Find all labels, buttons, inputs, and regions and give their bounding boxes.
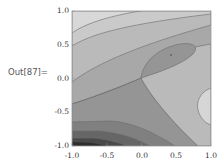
contour-plot — [0, 0, 218, 167]
x-tick-label: -1.0 — [60, 151, 84, 160]
x-tick-label: 1.0 — [199, 151, 218, 160]
contour-regions — [72, 11, 211, 146]
x-tick-label: -0.5 — [95, 151, 119, 160]
y-tick-label: -0.5 — [52, 107, 69, 116]
x-tick-label: 0.5 — [164, 151, 188, 160]
y-tick-label: 0.0 — [52, 74, 69, 83]
extremum-point — [170, 54, 172, 56]
y-tick-label: 1.0 — [52, 6, 69, 15]
y-tick-label: 0.5 — [52, 40, 69, 49]
x-tick-label: 0.0 — [130, 151, 154, 160]
y-tick-label: -1.0 — [52, 141, 69, 150]
